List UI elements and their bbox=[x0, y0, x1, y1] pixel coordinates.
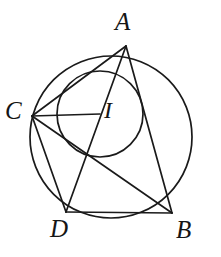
vertex-label-c: C bbox=[5, 98, 22, 123]
segment-D-B bbox=[66, 212, 172, 213]
incenter-label-i: I bbox=[104, 98, 112, 122]
vertex-label-b: B bbox=[176, 217, 191, 242]
segment-A-B bbox=[126, 46, 172, 213]
segment-C-B bbox=[32, 116, 172, 213]
circumcircle bbox=[30, 56, 192, 218]
geometry-figure: A C I D B bbox=[0, 0, 221, 257]
vertex-label-d: D bbox=[50, 216, 68, 241]
vertex-label-a: A bbox=[115, 9, 130, 34]
segment-C-I bbox=[32, 114, 100, 116]
